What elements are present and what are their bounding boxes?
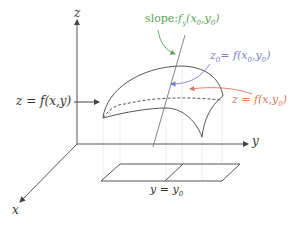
surface-label: z = f(x,y) (16, 94, 71, 108)
plane-prefix: y = y (150, 183, 179, 196)
diagram-canvas: z y x z = f(x,y) slope:fy(x0,y0) z0= f(x… (0, 0, 298, 226)
x-axis (20, 144, 77, 202)
x-axis-label: x (12, 203, 19, 217)
point-eq: = f(x (220, 49, 247, 62)
surface-right-edge (202, 96, 223, 137)
plane-sub: 0 (179, 190, 183, 198)
slope-label: slope:fy(x0,y0) (145, 12, 220, 27)
trace-end: ) (283, 93, 287, 106)
domain-rectangle (101, 164, 240, 181)
trace-prefix: z = f(x,y (232, 93, 278, 106)
point-label: z0= f(x0,y0) (210, 49, 271, 64)
y-axis-label: y (252, 134, 259, 148)
point-mid: ,y (252, 49, 262, 62)
slope-arrow (158, 30, 175, 54)
trace-label: z = f(x,y0) (232, 93, 287, 108)
diagram-svg (0, 0, 298, 226)
z-axis-label: z (74, 6, 80, 20)
surface (103, 66, 223, 137)
slope-mid: ,y (201, 12, 211, 25)
tangent-line (153, 35, 185, 147)
surface-top-edge (103, 66, 223, 118)
slope-end: ) (215, 12, 219, 25)
surface-front-edge (103, 108, 202, 137)
slope-prefix: slope: (145, 12, 178, 25)
slope-args: (x (186, 12, 197, 25)
plane-label: y = y0 (150, 183, 183, 198)
point-end: ) (266, 49, 270, 62)
